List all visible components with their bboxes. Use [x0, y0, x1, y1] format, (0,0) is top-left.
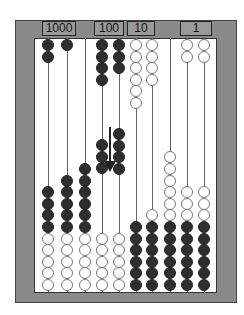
black-bead[interactable]	[113, 51, 125, 63]
white-bead[interactable]	[61, 279, 73, 291]
white-bead[interactable]	[79, 256, 91, 268]
black-bead[interactable]	[181, 279, 193, 291]
black-bead[interactable]	[198, 233, 210, 245]
white-bead[interactable]	[96, 233, 108, 245]
black-bead[interactable]	[181, 221, 193, 233]
black-bead[interactable]	[61, 198, 73, 210]
black-bead[interactable]	[113, 128, 125, 140]
black-bead[interactable]	[113, 140, 125, 152]
black-bead[interactable]	[113, 39, 125, 51]
white-bead[interactable]	[198, 39, 210, 51]
white-bead[interactable]	[181, 39, 193, 51]
white-bead[interactable]	[42, 279, 54, 291]
black-bead[interactable]	[146, 256, 158, 268]
black-bead[interactable]	[181, 233, 193, 245]
black-bead[interactable]	[79, 198, 91, 210]
white-bead[interactable]	[164, 175, 176, 187]
white-bead[interactable]	[96, 256, 108, 268]
white-bead[interactable]	[42, 256, 54, 268]
white-bead[interactable]	[113, 256, 125, 268]
black-bead[interactable]	[79, 163, 91, 175]
white-bead[interactable]	[198, 51, 210, 63]
black-bead[interactable]	[96, 39, 108, 51]
black-bead[interactable]	[198, 279, 210, 291]
black-bead[interactable]	[42, 39, 54, 51]
white-bead[interactable]	[130, 51, 142, 63]
black-bead[interactable]	[79, 221, 91, 233]
black-bead[interactable]	[96, 51, 108, 63]
black-bead[interactable]	[146, 233, 158, 245]
black-bead[interactable]	[146, 221, 158, 233]
black-bead[interactable]	[130, 279, 142, 291]
black-bead[interactable]	[130, 256, 142, 268]
place-label-100: 100	[94, 21, 124, 36]
white-bead[interactable]	[96, 279, 108, 291]
white-bead[interactable]	[181, 198, 193, 210]
black-bead[interactable]	[164, 233, 176, 245]
white-bead[interactable]	[79, 279, 91, 291]
black-bead[interactable]	[164, 221, 176, 233]
white-bead[interactable]	[146, 39, 158, 51]
black-bead[interactable]	[61, 39, 73, 51]
white-bead[interactable]	[130, 39, 142, 51]
black-bead[interactable]	[164, 279, 176, 291]
white-bead[interactable]	[164, 163, 176, 175]
white-bead[interactable]	[146, 74, 158, 86]
white-bead[interactable]	[130, 74, 142, 86]
white-bead[interactable]	[198, 198, 210, 210]
black-bead[interactable]	[96, 139, 108, 151]
black-bead[interactable]	[181, 256, 193, 268]
black-bead[interactable]	[198, 256, 210, 268]
white-bead[interactable]	[130, 97, 142, 109]
black-bead[interactable]	[42, 51, 54, 63]
down-arrow-icon	[109, 127, 111, 163]
white-bead[interactable]	[61, 233, 73, 245]
black-bead[interactable]	[42, 221, 54, 233]
white-bead[interactable]	[79, 233, 91, 245]
black-bead[interactable]	[164, 256, 176, 268]
black-bead[interactable]	[130, 221, 142, 233]
black-bead[interactable]	[42, 198, 54, 210]
black-bead[interactable]	[61, 221, 73, 233]
place-label-10: 10	[127, 21, 155, 36]
black-bead[interactable]	[198, 221, 210, 233]
black-bead[interactable]	[61, 175, 73, 187]
white-bead[interactable]	[146, 51, 158, 63]
white-bead[interactable]	[164, 198, 176, 210]
black-bead[interactable]	[146, 279, 158, 291]
white-bead[interactable]	[181, 51, 193, 63]
white-bead[interactable]	[42, 233, 54, 245]
white-bead[interactable]	[113, 279, 125, 291]
black-bead[interactable]	[96, 74, 108, 86]
place-label-1: 1	[180, 21, 212, 36]
place-label-1000: 1000	[42, 21, 76, 36]
black-bead[interactable]	[130, 233, 142, 245]
white-bead[interactable]	[113, 233, 125, 245]
black-bead[interactable]	[79, 175, 91, 187]
white-bead[interactable]	[61, 256, 73, 268]
arrow-head-icon	[104, 161, 116, 172]
